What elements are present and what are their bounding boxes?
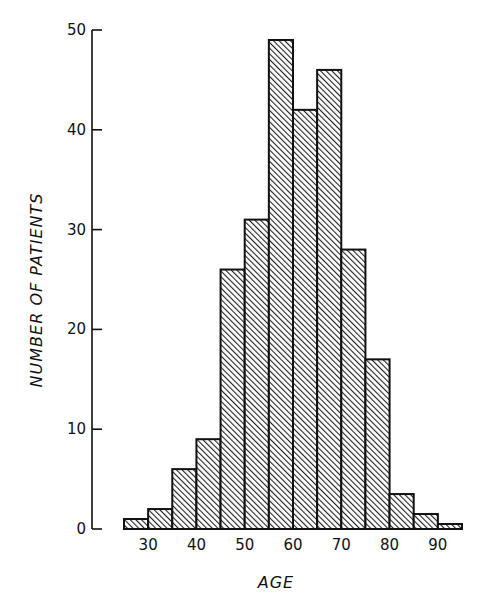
y-tick-label: 20 <box>67 320 86 338</box>
y-tick-label: 0 <box>76 520 86 538</box>
x-tick-label: 90 <box>428 536 447 554</box>
y-tick-label: 10 <box>67 420 86 438</box>
x-tick-label: 60 <box>283 536 302 554</box>
x-tick-label: 40 <box>187 536 206 554</box>
histogram-bar <box>148 509 172 529</box>
y-tick-label: 50 <box>67 21 86 39</box>
histogram-bar <box>390 494 414 529</box>
histogram-bar <box>341 250 365 529</box>
histogram-bar <box>245 220 269 529</box>
x-axis-labels: 30405060708090 <box>139 536 448 554</box>
x-tick-label: 80 <box>380 536 399 554</box>
y-tick-label: 40 <box>67 121 86 139</box>
x-tick-label: 70 <box>332 536 351 554</box>
histogram-bar <box>124 519 148 529</box>
y-axis: 01020304050 <box>67 21 102 538</box>
histogram-bar <box>172 469 196 529</box>
histogram-bar <box>196 439 220 529</box>
histogram-chart: 01020304050 30405060708090 NUMBER OF PAT… <box>0 0 484 605</box>
x-tick-label: 50 <box>235 536 254 554</box>
y-tick-label: 30 <box>67 221 86 239</box>
histogram-bar <box>414 514 438 529</box>
histogram-bar <box>317 70 341 529</box>
histogram-bar <box>221 270 245 529</box>
y-axis-title: NUMBER OF PATIENTS <box>27 193 46 388</box>
histogram-bar <box>293 110 317 529</box>
x-axis-title: AGE <box>257 573 294 592</box>
bars-group <box>124 40 462 529</box>
x-tick-label: 30 <box>139 536 158 554</box>
histogram-bar <box>365 359 389 529</box>
histogram-bar <box>438 524 462 529</box>
histogram-bar <box>269 40 293 529</box>
